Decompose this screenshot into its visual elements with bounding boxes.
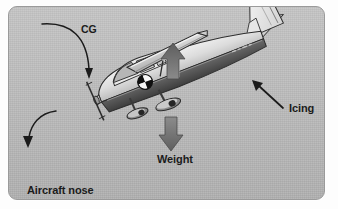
label-weight: Weight (157, 153, 193, 165)
label-cg: CG (81, 24, 97, 36)
arrow-down-icon (159, 117, 183, 151)
figure-root: CG Icing Weight Aircraft nose pitches do… (0, 0, 338, 209)
diagram-panel: CG Icing Weight Aircraft nose pitches do… (8, 6, 325, 200)
aircraft (73, 7, 300, 133)
arrow-up-left-icon (252, 80, 283, 108)
fuselage (93, 18, 270, 113)
label-aircraft-nose-pitches-down: Aircraft nose pitches down (27, 159, 96, 200)
label-icing: Icing (289, 102, 314, 114)
curved-arrow-down-left-icon (23, 111, 56, 148)
label-nose-line1: Aircraft nose (27, 184, 96, 196)
